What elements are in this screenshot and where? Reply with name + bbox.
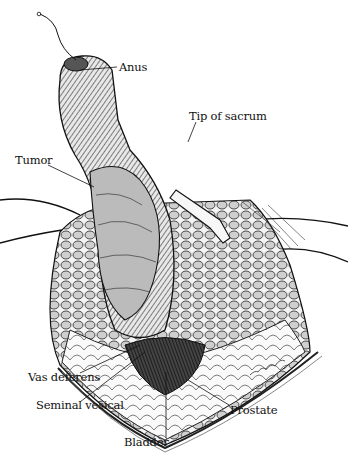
label-tip-of-sacrum: Tip of sacrum [189, 109, 267, 123]
surgical-illustration [0, 0, 348, 460]
suture-thread [40, 14, 76, 60]
label-anus: Anus [119, 60, 147, 74]
label-seminal-vesical: Seminal vesical [36, 398, 124, 412]
leader-sacrum [188, 122, 196, 142]
label-bladder: Bladder [124, 435, 169, 449]
label-vas-deferens: Vas deferens [28, 370, 100, 384]
label-tumor: Tumor [15, 153, 52, 167]
label-prostate: Prostate [230, 403, 277, 417]
anus-opening [64, 57, 88, 71]
